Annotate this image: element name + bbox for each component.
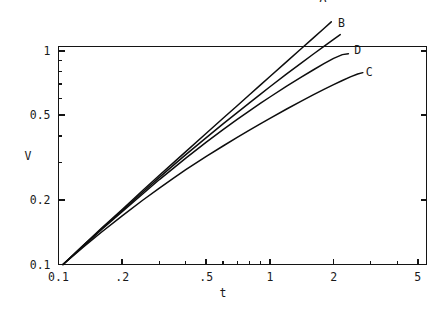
curve-label-c: C [366, 65, 373, 79]
curve-label-b: B [338, 16, 345, 30]
x-tick-label: .5 [199, 270, 213, 284]
y-tick-label: 0.1 [30, 258, 51, 272]
log-log-line-chart: 0.1.2.5125 0.10.20.51 ABDC t V [0, 0, 447, 310]
curve-label-d: D [354, 43, 361, 57]
curve-labels: ABDC [319, 0, 372, 79]
y-axis-title: V [25, 149, 32, 163]
x-axis-title: t [220, 286, 227, 300]
y-tick-label: 0.2 [30, 193, 51, 207]
x-axis-ticks [59, 259, 418, 265]
x-axis-tick-labels: 0.1.2.5125 [48, 270, 421, 284]
y-tick-label: 1 [44, 44, 51, 58]
x-tick-label: .2 [115, 270, 129, 284]
x-tick-label: 0.1 [48, 270, 69, 284]
x-tick-label: 5 [414, 270, 421, 284]
curve-label-a: A [319, 0, 326, 5]
chart-container: 0.1.2.5125 0.10.20.51 ABDC t V [0, 0, 447, 310]
y-axis-tick-labels: 0.10.20.51 [30, 44, 51, 271]
y-axis-ticks [59, 51, 427, 264]
y-tick-label: 0.5 [30, 108, 51, 122]
x-tick-label: 1 [266, 270, 273, 284]
curve-c [63, 73, 363, 265]
data-curves [63, 22, 363, 265]
x-tick-label: 2 [330, 270, 337, 284]
curve-d [63, 54, 348, 265]
